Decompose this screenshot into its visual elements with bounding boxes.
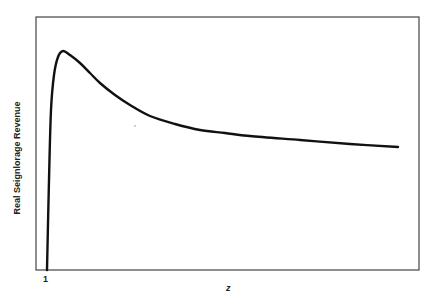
- plot-frame: [36, 17, 419, 270]
- y-axis-label: Real Seignlorage Revenue: [12, 101, 22, 214]
- x-tick-label: 1: [43, 274, 48, 284]
- x-axis-label: z: [226, 283, 231, 293]
- revenue-curve: [47, 51, 398, 270]
- chart-canvas: [0, 0, 440, 302]
- stray-dot: [134, 125, 135, 126]
